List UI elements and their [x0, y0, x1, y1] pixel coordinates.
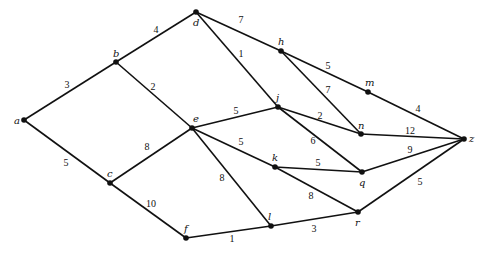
node-m: [365, 89, 371, 95]
node-c: [107, 180, 113, 186]
edge-a-c: [24, 120, 110, 183]
edge-f-l: [186, 226, 271, 238]
node-label-r: r: [355, 217, 361, 228]
nodes-layer: [21, 9, 467, 241]
node-q: [359, 169, 365, 175]
edge-weight-f-l: 1: [230, 233, 235, 244]
edge-weight-d-j: 1: [239, 48, 244, 59]
edge-weight-h-m: 5: [326, 60, 331, 71]
node-label-h: h: [278, 36, 284, 47]
node-label-q: q: [359, 177, 365, 188]
edge-weight-q-z: 9: [408, 144, 413, 155]
node-label-e: e: [193, 113, 199, 124]
edge-a-b: [24, 62, 116, 120]
weighted-graph-diagram: 3475421752126559851088513 abcdefhjklmnqr…: [0, 0, 482, 255]
node-n: [358, 131, 364, 137]
node-label-l: l: [268, 211, 271, 222]
edge-weight-k-r: 8: [309, 190, 314, 201]
node-label-j: j: [274, 92, 279, 103]
node-d: [193, 9, 199, 15]
node-label-m: m: [365, 77, 374, 88]
node-label-n: n: [358, 120, 364, 131]
edge-weight-j-n: 2: [318, 110, 323, 121]
node-z: [461, 136, 467, 142]
edge-weight-b-d: 4: [154, 24, 159, 35]
edges-layer: [24, 12, 464, 238]
edge-weight-e-j: 5: [234, 105, 239, 116]
node-label-c: c: [107, 168, 113, 179]
edge-weight-r-z: 5: [418, 176, 423, 187]
edge-weight-k-q: 5: [316, 157, 321, 168]
node-r: [355, 209, 361, 215]
edge-h-m: [281, 51, 368, 92]
edge-e-l: [192, 128, 271, 226]
edge-weight-a-c: 5: [64, 157, 69, 168]
node-e: [189, 125, 195, 131]
edge-c-e: [110, 128, 192, 183]
edge-m-z: [368, 92, 464, 139]
edge-weight-n-z: 12: [405, 125, 415, 136]
node-label-z: z: [468, 133, 475, 144]
edge-weight-h-n: 7: [326, 84, 331, 95]
edge-k-r: [275, 167, 358, 212]
node-label-k: k: [272, 152, 278, 163]
edge-e-k: [192, 128, 275, 167]
edge-weight-j-q: 6: [311, 135, 316, 146]
node-label-f: f: [183, 223, 190, 234]
edge-d-j: [196, 12, 278, 107]
edge-q-z: [362, 139, 464, 172]
node-j: [275, 104, 281, 110]
edge-weight-e-k: 5: [239, 136, 244, 147]
node-f: [183, 235, 189, 241]
edge-weight-c-f: 10: [146, 198, 156, 209]
node-label-b: b: [113, 48, 119, 59]
node-l: [268, 223, 274, 229]
edge-weight-m-z: 4: [416, 103, 421, 114]
edge-b-e: [116, 62, 192, 128]
edge-weight-d-h: 7: [239, 14, 244, 25]
edge-weight-l-r: 3: [312, 223, 317, 234]
edge-c-f: [110, 183, 186, 238]
node-a: [21, 117, 27, 123]
node-h: [278, 48, 284, 54]
edge-weight-e-l: 8: [220, 172, 225, 183]
node-label-d: d: [193, 17, 199, 28]
edge-weight-a-b: 3: [65, 79, 70, 90]
node-b: [113, 59, 119, 65]
edge-b-d: [116, 12, 196, 62]
node-k: [272, 164, 278, 170]
edge-weight-b-e: 2: [151, 81, 156, 92]
node-label-a: a: [14, 115, 20, 126]
edge-weight-c-e: 8: [145, 141, 150, 152]
